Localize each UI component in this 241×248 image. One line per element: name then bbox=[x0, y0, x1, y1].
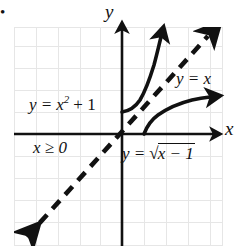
label-parabola-equation: y =x2+ 1 bbox=[29, 94, 96, 113]
x-axis-label: x bbox=[225, 119, 233, 138]
label-parabola-exponent: 2 bbox=[64, 93, 70, 105]
y-axis-label: y bbox=[105, 2, 113, 21]
label-parabola-base: x bbox=[56, 95, 64, 114]
label-identity-equation: y = x bbox=[176, 70, 211, 87]
curve-parabola bbox=[122, 37, 161, 112]
identity-line-y-equals-x bbox=[27, 36, 208, 237]
inverse-functions-figure: • y x y =x2+ 1 x ≥ 0 y =√x − 1 y = x bbox=[0, 0, 241, 248]
curve-square-root bbox=[144, 97, 210, 134]
label-sqrt-lhs: y = bbox=[122, 144, 145, 163]
label-sqrt-radicand: x − 1 bbox=[158, 143, 195, 163]
graph-canvas bbox=[0, 0, 241, 248]
bullet-icon: • bbox=[0, 5, 5, 20]
label-square-root-equation: y =√x − 1 bbox=[122, 145, 195, 162]
label-parabola-lhs: y = bbox=[29, 95, 52, 114]
label-parabola-rest: + 1 bbox=[73, 95, 95, 114]
label-domain-restriction: x ≥ 0 bbox=[33, 139, 67, 156]
